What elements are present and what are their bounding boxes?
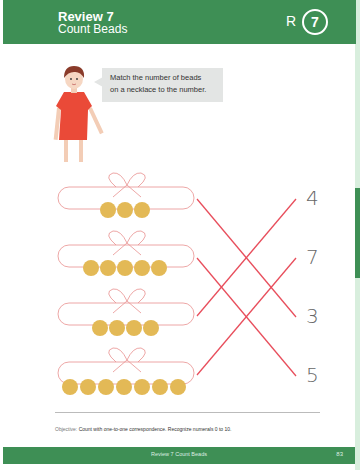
number-7: 7 [306, 245, 319, 269]
speech-bubble: Match the number of beads on a necklace … [102, 68, 223, 102]
footer-bar: Review 7 Count Beads 83 [3, 447, 355, 464]
necklace-4 [58, 348, 194, 395]
objective-text: Objective: Count with one-to-one corresp… [55, 426, 232, 432]
page-number: 83 [336, 451, 343, 457]
footer-title: Review 7 Count Beads [3, 451, 355, 457]
necklace-1 [58, 173, 194, 218]
match-lines [197, 199, 296, 376]
objective-body: Count with one-to-one correspondence. Re… [79, 426, 232, 432]
necklace-3 [58, 289, 194, 336]
objective-label: Objective: [55, 426, 77, 432]
instruction-line-1: Match the number of beads [110, 72, 223, 84]
number-4: 4 [306, 186, 319, 210]
instruction-line-2: on a necklace to the number. [110, 84, 223, 96]
necklace-2 [58, 231, 194, 276]
number-3: 3 [306, 304, 319, 328]
number-5: 5 [306, 363, 319, 387]
divider [55, 412, 320, 413]
